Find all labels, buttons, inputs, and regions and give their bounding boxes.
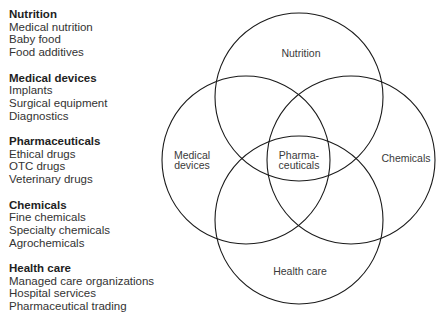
label-health-care: Health care <box>273 265 327 277</box>
label-medical-devices-line2: devices <box>174 159 210 171</box>
venn-diagram: Nutrition Medical devices Chemicals Heal… <box>0 0 445 323</box>
label-pharmaceuticals-line2: ceuticals <box>279 159 320 171</box>
label-nutrition: Nutrition <box>281 47 320 59</box>
label-chemicals: Chemicals <box>381 152 430 164</box>
